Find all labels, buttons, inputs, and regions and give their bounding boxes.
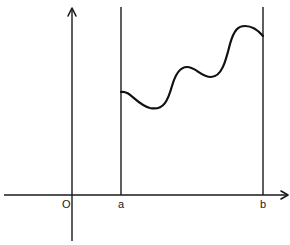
bound-b-label: b	[260, 199, 266, 210]
diagram-canvas	[0, 0, 290, 245]
function-curve	[121, 26, 263, 108]
origin-label: O	[62, 199, 71, 210]
bound-a-label: a	[118, 199, 124, 210]
